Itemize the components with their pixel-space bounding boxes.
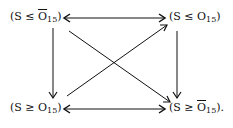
edge-diag-up: [67, 25, 167, 96]
diagram-arrows: [0, 0, 233, 128]
edge-diag-down: [69, 31, 170, 102]
